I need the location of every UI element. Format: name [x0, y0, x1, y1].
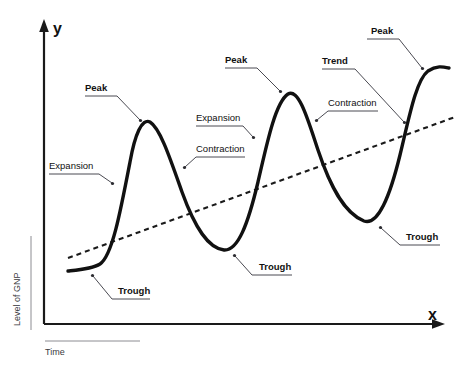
peak-1-anchor-dot	[139, 119, 142, 122]
trough-3-label: Trough	[406, 231, 438, 242]
trough-1-leader	[93, 276, 112, 299]
peak-2-anchor-dot	[279, 90, 282, 93]
expansion-1-label: Expansion	[49, 160, 93, 171]
callout-expansion-2: Expansion	[196, 112, 255, 139]
trough-1-label: Trough	[118, 285, 150, 296]
trend-anchor-dot	[403, 121, 406, 124]
callout-trend: Trend	[322, 55, 406, 124]
callout-trough-1: Trough	[91, 274, 150, 299]
trough-1-anchor-dot	[91, 274, 94, 277]
contraction-2-label: Contraction	[328, 97, 377, 108]
peak-2-label: Peak	[225, 54, 248, 65]
x-axis-title: Time	[45, 347, 65, 357]
peak-3-anchor-dot	[421, 67, 424, 70]
business-cycle-curve	[68, 67, 449, 271]
contraction-1-leader	[185, 157, 196, 167]
peak-2-leader	[257, 68, 280, 91]
callout-expansion-1: Expansion	[49, 160, 114, 185]
expansion-2-anchor-dot	[252, 136, 255, 139]
peak-1-leader	[117, 96, 140, 120]
contraction-1-label: Contraction	[196, 143, 245, 154]
callout-contraction-2: Contraction	[315, 97, 378, 122]
callout-contraction-1: Contraction	[183, 143, 245, 169]
y-axis-symbol: y	[53, 20, 62, 37]
peak-3-leader	[399, 39, 422, 68]
expansion-2-leader	[243, 126, 253, 137]
expansion-2-label: Expansion	[196, 112, 240, 123]
callout-peak-3: Peak	[367, 25, 424, 70]
trough-2-anchor-dot	[233, 254, 236, 257]
trough-2-leader	[235, 256, 252, 275]
x-axis-title-group: Time	[45, 341, 140, 357]
business-cycle-diagram: y x Level of GNP Time Expansion Peak	[0, 0, 472, 372]
callout-peak-2: Peak	[225, 54, 282, 93]
trough-2-label: Trough	[259, 261, 291, 272]
contraction-2-leader	[317, 111, 328, 120]
diagram-canvas: y x Level of GNP Time Expansion Peak	[0, 0, 472, 372]
trend-leader	[355, 69, 404, 122]
y-axis-title: Level of GNP	[12, 272, 22, 326]
trough-3-leader	[381, 228, 400, 245]
callout-peak-1: Peak	[85, 82, 142, 122]
y-axis-title-group: Level of GNP	[12, 236, 31, 330]
contraction-2-anchor-dot	[315, 119, 318, 122]
callout-trough-2: Trough	[233, 254, 292, 275]
y-axis-arrowhead	[39, 19, 49, 32]
expansion-1-anchor-dot	[111, 182, 114, 185]
peak-3-label: Peak	[371, 25, 394, 36]
axes-group: y x	[39, 19, 445, 329]
callout-trough-3: Trough	[379, 226, 440, 245]
expansion-1-leader	[99, 174, 112, 183]
peak-1-label: Peak	[85, 82, 108, 93]
contraction-1-anchor-dot	[183, 166, 186, 169]
trend-label: Trend	[322, 55, 348, 66]
x-axis-symbol: x	[428, 306, 437, 323]
trough-3-anchor-dot	[379, 226, 382, 229]
